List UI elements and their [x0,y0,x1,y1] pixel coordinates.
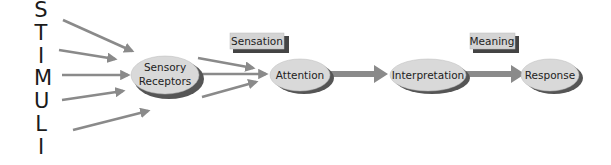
arrow-stimulus-5 [73,111,148,130]
arrow-stimulus-4 [62,91,123,100]
attention-label: Attention [276,69,324,81]
receptor-to-attention-arrows [198,58,266,97]
sensation-label: Sensation [231,35,283,47]
sensory-receptors-label-line2: Receptors [139,75,192,87]
meaning-label: Meaning [470,35,515,47]
arrow-stimulus-2 [59,50,115,59]
arrow-interpretation-to-response [466,65,525,83]
arrow-attention-to-interpretation [326,65,388,83]
box-sensation: Sensation [230,33,289,53]
perception-flow-diagram: Sensory Receptors Attention Interpretati… [0,0,611,165]
node-response: Response [521,59,583,94]
node-attention: Attention [270,59,334,94]
node-interpretation: Interpretation [390,59,470,94]
box-meaning: Meaning [470,33,519,53]
arrow-receptor-1 [198,58,253,68]
arrow-stimulus-1 [63,20,132,51]
sensory-receptors-label-line1: Sensory [144,61,186,73]
arrow-receptor-3 [202,82,256,97]
interpretation-label: Interpretation [392,69,465,81]
response-label: Response [525,69,575,81]
node-sensory-receptors: Sensory Receptors [131,56,204,99]
